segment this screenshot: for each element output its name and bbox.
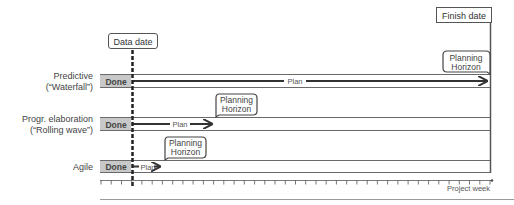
plan-label-rolling: Plan xyxy=(172,120,187,129)
planning-approaches-diagram: Finish date Done Done Done Predictive (“… xyxy=(0,0,514,205)
plan-arrow-waterfall: Plan xyxy=(133,77,487,86)
finish-date-marker: Finish date xyxy=(437,8,492,23)
row-label-predictive: Predictive xyxy=(53,71,93,81)
finish-date-label: Finish date xyxy=(442,11,486,21)
planning-horizon-text: Horizon xyxy=(171,147,201,157)
done-label-agile: Done xyxy=(105,162,127,172)
done-label-waterfall: Done xyxy=(105,77,127,87)
time-axis: Project week xyxy=(100,179,493,193)
row-label-waterfall: (“Waterfall”) xyxy=(46,82,93,92)
plan-arrow-agile: Plan xyxy=(133,163,160,172)
planning-horizon-callout-waterfall: Planning Horizon xyxy=(443,51,490,74)
done-label-rolling: Done xyxy=(105,120,127,130)
plan-arrow-rolling: Plan xyxy=(133,120,212,129)
planning-horizon-callout-rolling: Planning Horizon xyxy=(216,94,257,117)
plan-label-agile: Plan xyxy=(140,163,155,172)
data-date-marker: Data date xyxy=(109,34,158,49)
planning-horizon-text: Horizon xyxy=(222,104,252,114)
row-label-progressive: Progr. elaboration xyxy=(22,114,93,124)
row-label-rolling-wave: (“Rolling wave”) xyxy=(30,125,93,135)
planning-horizon-text: Horizon xyxy=(451,62,481,72)
plan-label-waterfall: Plan xyxy=(287,77,302,86)
axis-label: Project week xyxy=(447,184,490,193)
planning-horizon-callout-agile: Planning Horizon xyxy=(165,137,206,160)
data-date-label: Data date xyxy=(113,37,152,47)
row-label-agile: Agile xyxy=(73,162,93,172)
